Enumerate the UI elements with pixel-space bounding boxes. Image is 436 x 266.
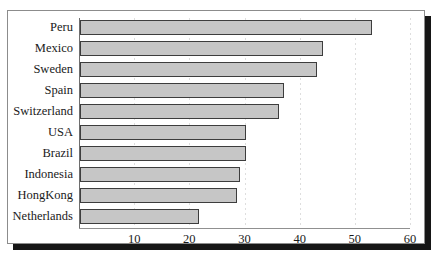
x-axis-tick-labels: 102030405060 bbox=[79, 232, 410, 248]
bar-row[interactable]: Switzerland bbox=[0, 102, 436, 123]
x-tick-label: 60 bbox=[395, 232, 425, 247]
bar-chart-figure: PeruMexicoSwedenSpainSwitzerlandUSABrazi… bbox=[0, 0, 436, 266]
x-tick-label: 20 bbox=[174, 232, 204, 247]
chart-title bbox=[8, 2, 436, 12]
bar-rows: PeruMexicoSwedenSpainSwitzerlandUSABrazi… bbox=[0, 18, 436, 228]
bar-track bbox=[80, 102, 411, 123]
bar-track bbox=[80, 144, 411, 165]
bar[interactable] bbox=[80, 209, 199, 224]
bar[interactable] bbox=[80, 20, 372, 35]
bar-row[interactable]: Indonesia bbox=[0, 165, 436, 186]
x-tick-label: 50 bbox=[340, 232, 370, 247]
bar[interactable] bbox=[80, 83, 284, 98]
bar[interactable] bbox=[80, 62, 317, 77]
bar[interactable] bbox=[80, 146, 246, 161]
bar-track bbox=[80, 18, 411, 39]
x-tick-label: 30 bbox=[230, 232, 260, 247]
bar[interactable] bbox=[80, 167, 240, 182]
bar-category-label: Brazil bbox=[0, 144, 73, 165]
bar[interactable] bbox=[80, 41, 323, 56]
bar-category-label: Peru bbox=[0, 18, 73, 39]
bar-row[interactable]: Mexico bbox=[0, 39, 436, 60]
bar-category-label: Spain bbox=[0, 81, 73, 102]
bar-category-label: Netherlands bbox=[0, 207, 73, 228]
bar-row[interactable]: Peru bbox=[0, 18, 436, 39]
bar-row[interactable]: Spain bbox=[0, 81, 436, 102]
bar-track bbox=[80, 207, 411, 228]
value-axis-line bbox=[79, 228, 410, 229]
bar-row[interactable]: USA bbox=[0, 123, 436, 144]
bar-category-label: Sweden bbox=[0, 60, 73, 81]
bar-row[interactable]: Netherlands bbox=[0, 207, 436, 228]
bar[interactable] bbox=[80, 188, 237, 203]
bar-track bbox=[80, 39, 411, 60]
bar-category-label: Switzerland bbox=[0, 102, 73, 123]
bar-category-label: HongKong bbox=[0, 186, 73, 207]
x-tick-label: 40 bbox=[285, 232, 315, 247]
bar-track bbox=[80, 186, 411, 207]
bar-row[interactable]: HongKong bbox=[0, 186, 436, 207]
x-tick-label: 10 bbox=[119, 232, 149, 247]
bar-row[interactable]: Sweden bbox=[0, 60, 436, 81]
bar[interactable] bbox=[80, 104, 279, 119]
bar-track bbox=[80, 123, 411, 144]
bar-track bbox=[80, 60, 411, 81]
bar-category-label: USA bbox=[0, 123, 73, 144]
bar-category-label: Mexico bbox=[0, 39, 73, 60]
bar-track bbox=[80, 81, 411, 102]
bar[interactable] bbox=[80, 125, 246, 140]
bar-row[interactable]: Brazil bbox=[0, 144, 436, 165]
bar-category-label: Indonesia bbox=[0, 165, 73, 186]
bar-track bbox=[80, 165, 411, 186]
